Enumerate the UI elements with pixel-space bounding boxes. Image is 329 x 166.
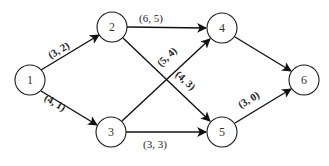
edge-label-3-5: (3, 3) xyxy=(143,138,167,151)
arrow-2-4 xyxy=(127,27,206,28)
edge-label-3-4: (5, 4) xyxy=(155,45,180,70)
node-3-label: 3 xyxy=(108,125,114,139)
edge-4-6 xyxy=(235,37,291,71)
node-3: 3 xyxy=(96,117,126,147)
node-4: 4 xyxy=(207,13,237,43)
node-4-label: 4 xyxy=(219,21,225,35)
edge-label-5-6: (3, 0) xyxy=(236,89,262,111)
node-5: 5 xyxy=(207,117,237,147)
network-diagram: (3, 2) (4, 1) (6, 5) (4, 3) (5, 4) (3, 3… xyxy=(0,0,329,166)
edge-label-1-3: (4, 1) xyxy=(42,92,68,114)
node-1: 1 xyxy=(15,65,45,95)
arrow-4-6 xyxy=(235,37,291,71)
node-2-label: 2 xyxy=(109,20,115,34)
edge-label-2-4: (6, 5) xyxy=(139,12,163,25)
node-6-label: 6 xyxy=(301,73,307,87)
node-5-label: 5 xyxy=(219,125,225,139)
node-6: 6 xyxy=(289,65,319,95)
node-2: 2 xyxy=(97,12,127,42)
edge-2-4 xyxy=(127,27,206,28)
node-1-label: 1 xyxy=(27,73,33,87)
